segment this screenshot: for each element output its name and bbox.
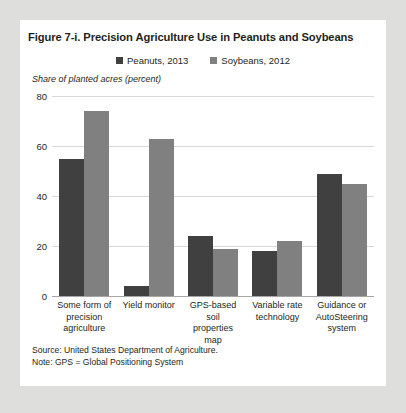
bar-2-4 bbox=[277, 241, 302, 296]
x-axis-label-4: Variable ratetechnology bbox=[245, 300, 309, 346]
bar-group bbox=[310, 96, 374, 296]
x-axis-label-1: Some form ofprecisionagriculture bbox=[52, 300, 116, 346]
bar-group bbox=[52, 96, 116, 296]
x-axis-labels: Some form ofprecisionagricultureYield mo… bbox=[52, 300, 374, 346]
figure-card: Figure 7-i. Precision Agriculture Use in… bbox=[20, 20, 386, 386]
y-tick-label-80: 80 bbox=[36, 91, 47, 102]
bar-2-2 bbox=[149, 139, 174, 297]
bar-group bbox=[181, 96, 245, 296]
legend-item-soybeans: Soybeans, 2012 bbox=[210, 55, 290, 66]
x-axis-label-2: Yield monitor bbox=[116, 300, 180, 346]
x-axis-label-3: GPS-based soilpropertiesmap bbox=[181, 300, 245, 346]
y-tick-label-0: 0 bbox=[42, 291, 47, 302]
bar-1-3 bbox=[188, 236, 213, 296]
bar-group bbox=[116, 96, 180, 296]
footnotes: Source: United States Department of Agri… bbox=[32, 345, 376, 368]
bar-2-5 bbox=[342, 184, 367, 297]
legend-item-peanuts: Peanuts, 2013 bbox=[116, 55, 188, 66]
plot-area: 020406080 bbox=[52, 96, 374, 316]
y-axis-title: Share of planted acres (percent) bbox=[32, 74, 161, 84]
bar-2-3 bbox=[213, 249, 238, 297]
y-tick-label-40: 40 bbox=[36, 191, 47, 202]
y-tick-label-20: 20 bbox=[36, 241, 47, 252]
bar-2-1 bbox=[84, 111, 109, 296]
gridline-0: 0 bbox=[52, 296, 374, 297]
bar-1-1 bbox=[59, 159, 84, 297]
legend-swatch-peanuts bbox=[116, 57, 123, 64]
legend-swatch-soybeans bbox=[210, 57, 217, 64]
source-text: Source: United States Department of Agri… bbox=[32, 345, 376, 357]
bar-series-container bbox=[52, 96, 374, 296]
legend-label-soybeans: Soybeans, 2012 bbox=[221, 55, 290, 66]
bar-group bbox=[245, 96, 309, 296]
bar-1-5 bbox=[317, 174, 342, 297]
bar-1-2 bbox=[124, 286, 149, 296]
page-title: Figure 7-i. Precision Agriculture Use in… bbox=[28, 31, 378, 43]
x-axis-label-5: Guidance orAutoSteeringsystem bbox=[310, 300, 374, 346]
bar-1-4 bbox=[252, 251, 277, 296]
chart-legend: Peanuts, 2013 Soybeans, 2012 bbox=[20, 55, 386, 66]
note-text: Note: GPS = Global Positioning System bbox=[32, 357, 376, 369]
legend-label-peanuts: Peanuts, 2013 bbox=[127, 55, 188, 66]
y-tick-label-60: 60 bbox=[36, 141, 47, 152]
